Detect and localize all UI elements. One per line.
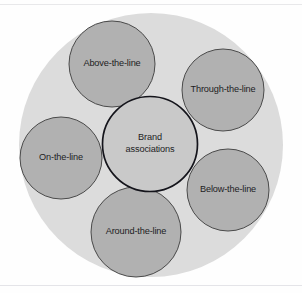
below-the-line-circle[interactable]	[187, 149, 269, 231]
brand-associations-circle[interactable]	[103, 97, 198, 192]
above-the-line-circle[interactable]	[69, 21, 155, 107]
diagram-canvas	[0, 0, 302, 293]
brand-associations-diagram: Above-the-line Through-the-line Below-th…	[0, 0, 302, 293]
through-the-line-circle[interactable]	[182, 49, 264, 131]
on-the-line-circle[interactable]	[20, 117, 102, 199]
around-the-line-circle[interactable]	[91, 187, 181, 277]
